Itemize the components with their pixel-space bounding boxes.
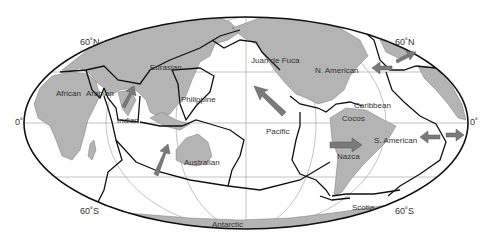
plate-label-australian: Australian — [184, 159, 220, 167]
plate-label-african: African — [56, 90, 81, 98]
plate-label-south-american: S. American — [374, 137, 417, 145]
plate-label-arabian: Arabian — [86, 90, 114, 98]
lat-label-60s-right: 60˚S — [395, 207, 414, 216]
plate-label-north-american: N. American — [315, 67, 359, 75]
lat-label-60n-right: 60˚N — [395, 38, 415, 47]
plate-label-indian: Indian — [117, 117, 139, 125]
plate-label-nazca: Nazca — [337, 153, 360, 161]
lat-label-60s-left: 60˚S — [80, 207, 99, 216]
tectonic-plate-map: 60˚N 60˚N 0˚ 0˚ 60˚S 60˚S African Arabia… — [0, 0, 492, 245]
plate-label-cocos: Cocos — [342, 115, 365, 123]
map-canvas — [0, 0, 492, 245]
plate-label-eurasian: Eurasian — [150, 64, 182, 72]
lat-label-60n-left: 60˚N — [80, 38, 100, 47]
plate-label-pacific: Pacific — [266, 128, 290, 136]
plate-label-antarctic: Antarctic — [212, 221, 243, 229]
plate-label-juan-de-fuca: Juan de Fuca — [251, 57, 299, 65]
plate-label-scotia: Scotia — [352, 204, 374, 212]
lat-label-eq-right: 0˚ — [470, 118, 478, 127]
plate-label-philippine: Philippine — [181, 96, 216, 104]
lat-label-eq-left: 0˚ — [15, 118, 23, 127]
plate-label-caribbean: Caribbean — [354, 102, 391, 110]
